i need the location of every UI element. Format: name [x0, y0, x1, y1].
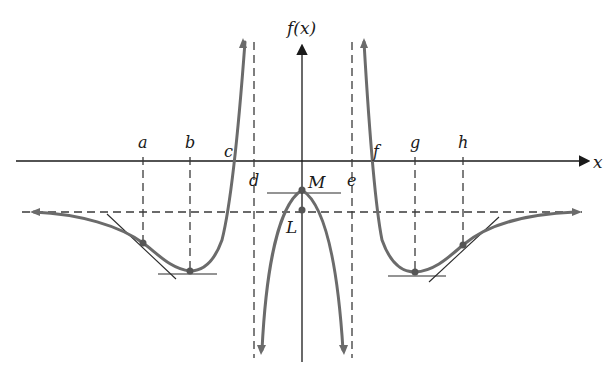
label-M: M: [307, 172, 326, 192]
curve-right-branch: [364, 42, 575, 272]
label-e: e: [347, 171, 356, 190]
arrow-middle-left-down: [257, 345, 266, 355]
arrow-left-branch-left: [30, 208, 40, 216]
point-min-b: [187, 268, 194, 275]
curve-left-branch: [34, 42, 245, 271]
point-min-g: [412, 269, 419, 276]
y-axis-label: f(x): [285, 18, 316, 38]
label-d: d: [249, 171, 259, 190]
arrow-middle-right-down: [339, 345, 348, 355]
label-c: c: [224, 142, 233, 161]
tangent-inflection-h: [429, 217, 499, 282]
label-h: h: [458, 133, 468, 152]
label-f: f: [372, 142, 382, 161]
label-a: a: [138, 133, 148, 152]
function-graph: f(x) x a b c d e f g h M L: [0, 0, 605, 365]
point-inflection-h: [460, 242, 467, 249]
arrow-right-branch-up: [360, 38, 368, 48]
label-L: L: [285, 217, 297, 237]
label-g: g: [410, 133, 420, 152]
label-b: b: [185, 133, 195, 152]
point-L: [299, 207, 306, 214]
arrow-right-branch-right: [572, 208, 582, 216]
point-M: [299, 187, 306, 194]
point-inflection-a: [140, 240, 147, 247]
x-axis-label: x: [593, 152, 603, 172]
tangent-inflection-a: [107, 214, 176, 279]
